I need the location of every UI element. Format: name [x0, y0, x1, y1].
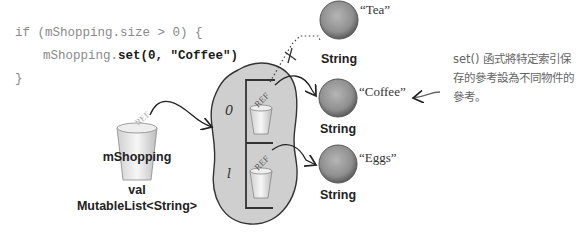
annotation-text: set() 函式將特定索引保存的參考設為不同物件的參考。 — [453, 50, 578, 107]
eggs-type: String — [313, 188, 363, 202]
eggs-string-ball-icon — [319, 145, 357, 183]
annotation-arrow — [413, 92, 440, 98]
tea-type: String — [314, 52, 364, 66]
tea-string-ball-icon — [320, 1, 358, 39]
coffee-type: String — [313, 122, 363, 136]
index-0-label: 0 — [225, 103, 233, 118]
coffee-string-ball-icon — [319, 79, 357, 117]
variable-name: mShopping — [97, 150, 177, 164]
slot-0-cup-icon — [250, 105, 272, 134]
index-1-label: l — [227, 166, 231, 181]
variable-type: MutableList<String> — [67, 199, 207, 213]
coffee-value: “Coffee” — [359, 84, 406, 100]
mshopping-ref-arrow — [150, 101, 212, 127]
eggs-value: “Eggs” — [359, 150, 397, 166]
tea-value: “Tea” — [360, 2, 390, 18]
cut-mark-icon — [285, 48, 296, 63]
slot-1-cup-icon — [250, 168, 272, 198]
variable-kind: val — [97, 183, 177, 197]
